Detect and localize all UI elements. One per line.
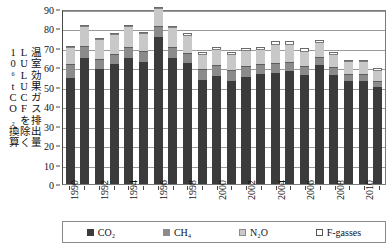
- stacked-bar[interactable]: [373, 68, 382, 184]
- bar-segment-co: [315, 65, 324, 184]
- stacked-bar[interactable]: [183, 33, 192, 184]
- bar-slot: [180, 11, 195, 184]
- bar-segment-co: [124, 58, 133, 184]
- bar-slot: [268, 11, 283, 184]
- y-tick-label: 10: [44, 160, 54, 171]
- stacked-bar[interactable]: [256, 47, 265, 184]
- bar-segment-no: [212, 49, 221, 66]
- bar-segment-no: [124, 26, 133, 46]
- stacked-bar[interactable]: [212, 47, 221, 184]
- bar-segment-no: [227, 54, 236, 71]
- stacked-bar[interactable]: [80, 25, 89, 185]
- legend-label-co2: CO₂: [98, 227, 115, 238]
- y-tick-mark: [56, 146, 60, 147]
- y-tick-label: 50: [44, 82, 54, 93]
- bar-segment-no: [183, 35, 192, 53]
- y-tick-label: 30: [44, 121, 54, 132]
- bar-segment-no: [256, 49, 265, 65]
- stacked-bar[interactable]: [198, 52, 207, 184]
- bar-segment-co: [300, 75, 309, 184]
- bar-segment-no: [154, 8, 163, 26]
- x-tick-mark: [84, 186, 85, 190]
- x-tick-slot: 1990: [62, 186, 77, 226]
- x-tick-mark: [290, 186, 291, 190]
- y-tick-mark: [56, 185, 60, 186]
- bar-segment-co: [168, 58, 177, 184]
- x-tick-slot: [195, 186, 210, 226]
- bar-segment-ch: [315, 57, 324, 66]
- bar-segment-ch: [256, 64, 265, 74]
- stacked-bar[interactable]: [359, 60, 368, 184]
- stacked-bar[interactable]: [241, 48, 250, 184]
- x-tick-slot: 2002: [239, 186, 254, 226]
- stacked-bar[interactable]: [271, 41, 280, 184]
- bar-segment-ch: [285, 62, 294, 71]
- stacked-bar[interactable]: [300, 48, 309, 184]
- x-tick-mark: [379, 186, 380, 190]
- legend-label-fgas: F-gasses: [327, 227, 361, 238]
- bar-segment-no: [198, 54, 207, 70]
- y-tick-label: 80: [44, 24, 54, 35]
- bar-segment-no: [139, 33, 148, 51]
- x-tick-slot: 1994: [121, 186, 136, 226]
- bar-segment-ch: [300, 66, 309, 75]
- x-tick-slot: 2010: [357, 186, 372, 226]
- x-tick-mark: [173, 186, 174, 190]
- bar-segment-co: [285, 71, 294, 184]
- bar-slot: [283, 11, 298, 184]
- bar-segment-no: [300, 51, 309, 67]
- stacked-bar[interactable]: [95, 38, 104, 184]
- stacked-bar[interactable]: [124, 25, 133, 184]
- stacked-bar[interactable]: [329, 52, 338, 184]
- bar-segment-co: [271, 73, 280, 184]
- legend-swatch-ch4: [163, 229, 170, 236]
- bar-slot: [356, 11, 371, 184]
- stacked-bar[interactable]: [315, 40, 324, 184]
- legend-label-n2o: N₂O: [250, 227, 268, 238]
- bar-slot: [370, 11, 385, 184]
- x-tick-slot: [224, 186, 239, 226]
- bar-segment-no: [66, 47, 75, 65]
- legend-item-co2[interactable]: CO₂: [87, 227, 115, 238]
- stacked-bar[interactable]: [285, 41, 294, 184]
- y-tick-label: 60: [44, 63, 54, 74]
- x-tick-slot: [77, 186, 92, 226]
- y-tick-mark: [56, 107, 60, 108]
- bar-segment-co: [95, 69, 104, 184]
- x-tick-mark: [349, 186, 350, 190]
- plot-area: [62, 10, 386, 185]
- x-tick-slot: [342, 186, 357, 226]
- stacked-bar[interactable]: [344, 60, 353, 184]
- bar-segment-co: [344, 81, 353, 184]
- stacked-bar[interactable]: [227, 52, 236, 184]
- bar-segment-ch: [227, 70, 236, 81]
- bar-slot: [122, 11, 137, 184]
- bar-segment-co: [110, 64, 119, 184]
- bar-segment-ch: [271, 63, 280, 73]
- bar-segment-no: [285, 44, 294, 63]
- x-tick-slot: [106, 186, 121, 226]
- legend-item-n2o[interactable]: N₂O: [239, 227, 268, 238]
- legend-item-ch4[interactable]: CH₄: [163, 227, 191, 238]
- stacked-bar[interactable]: [168, 26, 177, 185]
- x-axis-ticks: 1990199219941996199820002002200420062008…: [62, 186, 386, 226]
- bar-segment-ch: [183, 53, 192, 64]
- y-axis-title-line-3: 10⁶tCO₂換算: [8, 47, 19, 149]
- bar-segment-ch: [344, 74, 353, 81]
- x-tick-slot: 2004: [268, 186, 283, 226]
- stacked-bar[interactable]: [139, 32, 148, 184]
- bar-segment-co: [241, 77, 250, 184]
- chart-legend: CO₂CH₄N₂OF-gasses: [62, 221, 386, 243]
- y-axis-ticks: 0102030405060708090: [28, 0, 60, 196]
- stacked-bar[interactable]: [110, 33, 119, 184]
- bar-slot: [195, 11, 210, 184]
- x-tick-slot: [312, 186, 327, 226]
- x-tick-slot: 1996: [150, 186, 165, 226]
- stacked-bar[interactable]: [66, 46, 75, 184]
- bar-segment-co: [227, 81, 236, 184]
- bar-slot: [312, 11, 327, 184]
- y-tick-mark: [56, 87, 60, 88]
- x-tick-slot: [165, 186, 180, 226]
- legend-item-fgas[interactable]: F-gasses: [316, 227, 361, 238]
- stacked-bar[interactable]: [154, 7, 163, 184]
